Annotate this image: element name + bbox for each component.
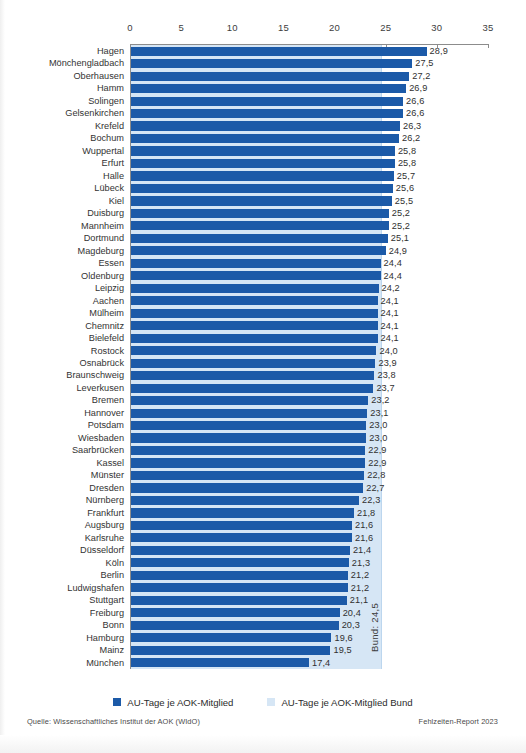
bar-row: Kassel22,9 [0,457,526,469]
bar [131,371,374,380]
bar-value-label: 25,1 [391,232,409,244]
bar-row: Osnabrück23,9 [0,357,526,369]
bar-category-label: Düsseldorf [0,544,124,556]
bar-category-label: Stuttgart [0,594,124,606]
bar-value-label: 21,2 [351,569,369,581]
bar-value-label: 23,0 [369,432,387,444]
legend-label: AU-Tage je AOK-Mitglied Bund [281,697,412,708]
bar-value-label: 17,4 [312,657,330,669]
bar-category-label: Dortmund [0,232,124,244]
bar-category-label: Frankfurt [0,507,124,519]
bar-category-label: Bochum [0,132,124,144]
bar-category-label: Berlin [0,569,124,581]
bar-row: Mannheim25,2 [0,220,526,232]
bar-category-label: Leipzig [0,282,124,294]
bar-category-label: Mainz [0,644,124,656]
bar [131,621,339,630]
bar-row: Hamburg19,6 [0,632,526,644]
bar-value-label: 24,4 [384,270,402,282]
bar [131,246,386,255]
bar-row: Halle25,7 [0,170,526,182]
bar [131,72,409,81]
bar [131,633,331,642]
bar-row: Hannover23,1 [0,407,526,419]
bar-value-label: 22,3 [362,494,380,506]
bar-row: Duisburg25,2 [0,207,526,219]
bar [131,521,352,530]
bar [131,421,366,430]
bar [131,359,375,368]
bar-category-label: Wuppertal [0,145,124,157]
bar [131,558,349,567]
bar-row: Leverkusen23,7 [0,382,526,394]
bar-category-label: Oberhausen [0,70,124,82]
bar-value-label: 25,2 [392,220,410,232]
bar [131,596,347,605]
bar-category-label: Chemnitz [0,320,124,332]
bar-value-label: 25,2 [392,207,410,219]
bar-category-label: Leverkusen [0,382,124,394]
bar-row: Potsdam23,0 [0,419,526,431]
x-tick-label: 0 [127,22,132,33]
bar-category-label: Gelsenkirchen [0,107,124,119]
bar-value-label: 21,6 [355,532,373,544]
bar-row: Berlin21,2 [0,569,526,581]
bar-value-label: 24,1 [381,332,399,344]
bar [131,171,394,180]
bar-row: Münster22,8 [0,469,526,481]
bar-value-label: 20,4 [343,607,361,619]
x-tick-label: 10 [227,22,238,33]
bar-row: Hagen28,9 [0,45,526,57]
bar-category-label: Aachen [0,295,124,307]
bar-value-label: 24,1 [381,295,399,307]
bar-row: Freiburg20,4 [0,607,526,619]
bar-value-label: 23,2 [371,394,389,406]
bar-category-label: Potsdam [0,419,124,431]
bar [131,196,392,205]
bar-value-label: 21,3 [352,557,370,569]
bar [131,471,364,480]
bar-category-label: Ludwigshafen [0,582,124,594]
bar [131,508,354,517]
bar-category-label: Kassel [0,457,124,469]
bar-row: Oberhausen27,2 [0,70,526,82]
bar-value-label: 23,9 [378,357,396,369]
bar-category-label: Duisburg [0,207,124,219]
bar [131,234,388,243]
bar [131,159,395,168]
footer-source: Quelle: Wissenschaftliches Institut der … [27,717,200,726]
bar-category-label: Mülheim [0,307,124,319]
bar-row: Mülheim24,1 [0,307,526,319]
bar-value-label: 26,3 [403,120,421,132]
bar [131,221,389,230]
bar-row: Kiel25,5 [0,195,526,207]
bar-row: Frankfurt21,8 [0,507,526,519]
bar [131,483,363,492]
bar-category-label: Essen [0,257,124,269]
bar-row: Bonn20,3 [0,619,526,631]
bar-value-label: 21,4 [353,544,371,556]
bar-value-label: 27,2 [412,70,430,82]
bar-row: Bielefeld24,1 [0,332,526,344]
legend-swatch-icon [267,698,275,706]
bar-value-label: 21,1 [350,594,368,606]
bar [131,583,348,592]
bar-value-label: 26,6 [406,107,424,119]
bar-row: Düsseldorf21,4 [0,544,526,556]
bar [131,146,395,155]
bars-area: Bund: 24,5 Hagen28,9Mönchengladbach27,5O… [0,45,526,669]
bar-row: Essen24,4 [0,257,526,269]
chart-figure: 05101520253035 Bund: 24,5 Hagen28,9Mönch… [0,0,526,753]
bar [131,259,381,268]
x-tick-label: 5 [178,22,183,33]
bar-value-label: 24,4 [384,257,402,269]
bar-category-label: Osnabrück [0,357,124,369]
bar-category-label: Karlsruhe [0,532,124,544]
bar-row: Mainz19,5 [0,644,526,656]
bar [131,109,403,118]
bar-row: Ludwigshafen21,2 [0,582,526,594]
bar-category-label: Magdeburg [0,245,124,257]
bar-category-label: Lübeck [0,182,124,194]
bar-value-label: 24,1 [381,307,399,319]
bar-row: Karlsruhe21,6 [0,532,526,544]
